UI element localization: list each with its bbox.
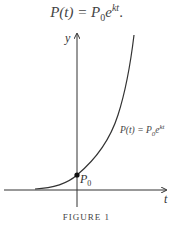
p0-label-sub: 0 — [87, 179, 91, 188]
exponential-curve — [35, 35, 134, 189]
curve-label-lhs: P(t) = P — [120, 125, 152, 135]
p0-point — [74, 172, 79, 177]
curve-label-exp: kt — [159, 123, 164, 131]
p0-label: P0 — [80, 172, 91, 188]
y-axis-label: y — [64, 31, 71, 45]
figure-caption: FIGURE 1 — [0, 212, 173, 220]
curve-label: P(t) = P0ekt — [120, 123, 165, 138]
x-axis-label: t — [164, 192, 168, 206]
